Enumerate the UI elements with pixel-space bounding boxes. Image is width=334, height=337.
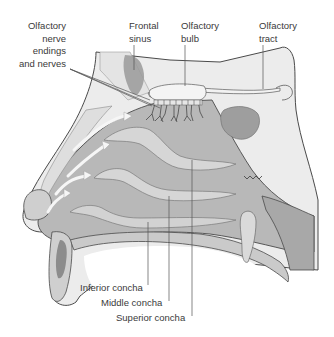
label-olfactory-tract: Olfactory tract <box>259 20 297 45</box>
label-middle-concha: Middle concha <box>101 297 162 310</box>
label-frontal-sinus: Frontal sinus <box>129 20 159 45</box>
label-superior-concha: Superior concha <box>116 312 185 325</box>
label-olfactory-bulb: Olfactory bulb <box>181 20 219 45</box>
olfactory-bulb-shape <box>149 84 206 100</box>
nasal-cavity-diagram: Olfactory nerve endings and nerves Front… <box>0 0 334 337</box>
label-inferior-concha: Inferior concha <box>80 282 143 295</box>
nostril <box>24 190 52 220</box>
label-olfactory-nerve-endings: Olfactory nerve endings and nerves <box>16 20 66 70</box>
